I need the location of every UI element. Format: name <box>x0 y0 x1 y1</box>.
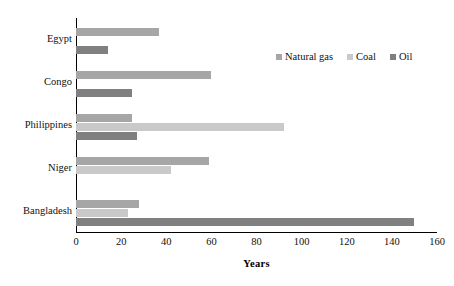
y-axis-label: Congo <box>0 76 72 87</box>
bar <box>76 89 132 97</box>
legend-label: Coal <box>356 51 376 63</box>
x-axis-line <box>76 232 437 233</box>
bar <box>76 132 137 140</box>
legend-swatch-icon <box>390 54 396 60</box>
x-axis-title: Years <box>76 258 437 269</box>
bar-fill-coal <box>76 209 128 217</box>
bar-fill-oil <box>76 46 108 54</box>
y-axis-label: Philippines <box>0 119 72 130</box>
x-tick-label: 0 <box>56 236 96 248</box>
y-axis-label: Bangladesh <box>0 205 72 216</box>
bar-group <box>76 104 437 147</box>
x-tick-label: 140 <box>372 236 412 248</box>
bar <box>76 114 132 122</box>
bar <box>76 46 108 54</box>
bar <box>76 166 171 174</box>
legend-item: Natural gas <box>276 51 333 63</box>
y-axis-label: Egypt <box>0 33 72 44</box>
x-tick-label: 80 <box>237 236 277 248</box>
bar-fill-coal <box>76 123 284 131</box>
bar-fill-natural-gas <box>76 114 132 122</box>
legend-swatch-icon <box>276 54 282 60</box>
legend-label: Oil <box>399 51 412 63</box>
bar-fill-natural-gas <box>76 28 159 36</box>
bar <box>76 28 159 36</box>
legend-swatch-icon <box>347 54 353 60</box>
bar <box>76 123 284 131</box>
bar-fill-natural-gas <box>76 71 211 79</box>
bar <box>76 209 128 217</box>
x-tick-label: 100 <box>282 236 322 248</box>
chart-legend: Natural gasCoalOil <box>276 51 412 63</box>
bar <box>76 71 211 79</box>
bar-fill-oil <box>76 218 414 226</box>
bar <box>76 218 414 226</box>
bar-chart: EgyptCongoPhilippinesNigerBangladesh 020… <box>0 0 454 286</box>
bar-fill-oil <box>76 132 137 140</box>
bar-group <box>76 61 437 104</box>
x-tick-label: 60 <box>191 236 231 248</box>
x-tick-label: 20 <box>101 236 141 248</box>
bar-fill-oil <box>76 89 132 97</box>
bar <box>76 157 209 165</box>
bar <box>76 200 139 208</box>
bar-fill-natural-gas <box>76 157 209 165</box>
legend-item: Coal <box>347 51 376 63</box>
bar-group <box>76 146 437 189</box>
bar-fill-coal <box>76 166 171 174</box>
bar-group <box>76 189 437 232</box>
legend-item: Oil <box>390 51 412 63</box>
x-tick-label: 40 <box>146 236 186 248</box>
x-tick-label: 120 <box>327 236 367 248</box>
x-tick-label: 160 <box>417 236 454 248</box>
legend-label: Natural gas <box>285 51 333 63</box>
y-axis-label: Niger <box>0 162 72 173</box>
bar-fill-natural-gas <box>76 200 139 208</box>
